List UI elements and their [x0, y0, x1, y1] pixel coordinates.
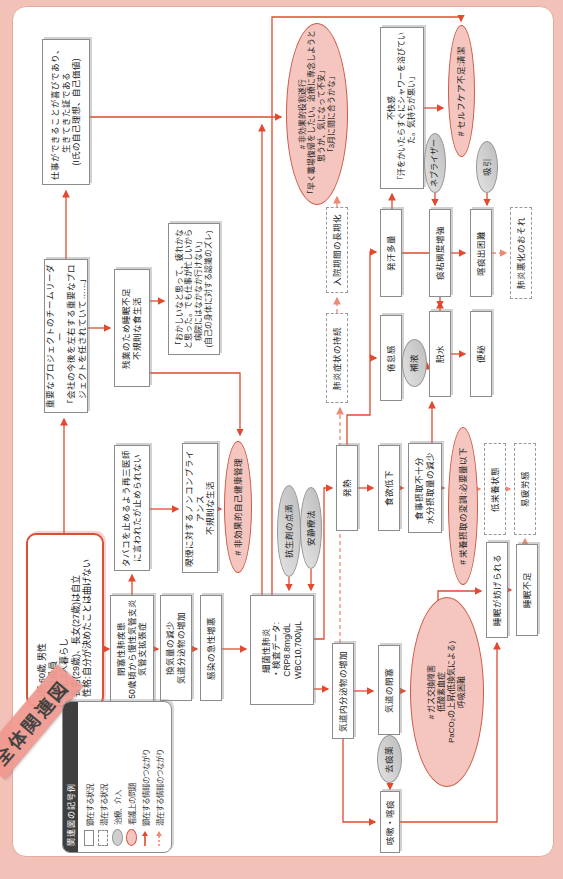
legend-label: 治療、介入 — [112, 790, 123, 825]
legend: 関連図の記号例 顕在する状況 潜在する状況 治療、介入 看護上の問題 — [62, 701, 172, 853]
node-sputum-viscosity-increase: 痰粘稠度増強 — [429, 209, 451, 297]
node-malaise: 倦怠感 — [380, 315, 402, 401]
node-malnutrition: 低栄養状態 — [484, 443, 506, 535]
node-cough-sputum: 咳嗽・喀痰 — [380, 791, 400, 853]
node-fever: 発熱 — [336, 445, 358, 531]
node-acute-infection-exacerbation: 感染の急性増悪 — [200, 595, 222, 701]
legend-item-latent-state: 潜在する状況 — [96, 708, 110, 846]
node-smoking-noncompliance: 喫煙に対するノンコンプライアンス 不規則な生活 — [182, 443, 218, 573]
node-constipation: 便秘 — [470, 311, 492, 397]
solid-arrow-icon — [141, 830, 149, 846]
legend-item-existing-state: 顕在する状況 — [82, 708, 96, 846]
legend-item-existing-link: 顕在する情報のつながり — [138, 708, 152, 846]
node-impaired-gas-exchange: # ガス交換障害 低酸素血症 PaCO₂の上昇(低換気による) 呼吸困難 — [410, 597, 484, 787]
node-antibiotic-iv: 抗生剤の点滴 — [277, 485, 301, 577]
node-airway-secretion-increase: 気道内分泌物の増加 — [332, 643, 354, 739]
node-sleep-lack: 睡眠不足 — [516, 544, 538, 636]
node-expectorant: 去痰薬 — [377, 735, 402, 783]
gray-ellipse-icon — [112, 829, 123, 846]
node-ventilation-decrease: 換気量の減少 気道分泌物の増加 — [160, 595, 192, 701]
node-ineffective-self-health-management: # 非効果的自己健康管理 — [224, 441, 252, 573]
node-cannot-quit-smoking: タバコを止めるよう再三医師に言われたが止められない — [114, 445, 150, 571]
node-profuse-sweating: 発汗多量 — [380, 209, 402, 297]
solid-box-icon — [84, 830, 94, 846]
node-risk-pneumonia-worsening: 肺炎悪化のおそれ — [510, 207, 532, 299]
legend-item-treatment: 治療、介入 — [110, 708, 124, 846]
diagram-stage: 全体関連図 関連図の記号例 顕在する状況 潜在する状況 治療、介入 看護上の問題 — [0, 0, 563, 879]
legend-label: 顕在する情報のつながり — [140, 749, 151, 826]
node-sleep-disturbed: 睡眠が妨げられる — [486, 542, 508, 638]
node-pneumonia-symptoms-persist: 肺炎症状の持続 — [326, 313, 348, 403]
node-difficulty-expectorating: 喀痰出困難 — [470, 209, 492, 297]
node-airway-obstruction: 気道の閉塞 — [378, 645, 400, 735]
dashed-box-icon — [98, 830, 108, 846]
pink-ellipse-icon — [126, 829, 137, 846]
rotated-nursing-concept-map: { "title": "全体関連図", "legend": { "header"… — [0, 0, 563, 879]
node-work-pride: 仕事ができることが喜びであり、生きてきた証である (I氏の自己理想、自己価値) — [42, 39, 90, 185]
node-bacterial-pneumonia: 細菌性肺炎 ・検査データ: CRP8.8mg/dL WBC10,700/μL — [250, 595, 314, 705]
node-awareness-gap: 「おかしいなと思って、疲れかなと思った。でも仕事が忙しいから病院にはなかなか行け… — [168, 223, 220, 355]
node-easy-fatigue: 易疲労感 — [514, 443, 536, 535]
legend-rows: 顕在する状況 潜在する状況 治療、介入 看護上の問題 顕在する情報のつながり — [78, 702, 171, 852]
node-prolonged-hospitalization: 入院期間の長期化 — [326, 207, 348, 293]
node-self-care-deficit-hygiene: # セルフケア不足:清潔 — [448, 25, 475, 157]
legend-item-latent-link: 潜在する情報のつながり — [152, 708, 166, 846]
legend-label: 顕在する状況 — [84, 784, 95, 826]
node-ineffective-role-performance: # 非効果的役割遂行 「早く職場復帰をしたい。治療に専念しようと思うが、気になっ… — [286, 23, 348, 205]
dashed-arrow-icon — [155, 830, 163, 846]
node-appetite-loss: 食欲低下 — [378, 445, 400, 531]
node-overtime-sleep-lack: 残業のため睡眠不足 不規則な食生活 — [114, 269, 150, 387]
legend-label: 潜在する情報のつながり — [154, 749, 165, 826]
legend-item-nursing-problem: 看護上の問題 — [124, 708, 138, 846]
node-dehydration: 脱水 — [429, 311, 451, 397]
legend-label: 潜在する状況 — [98, 784, 109, 826]
node-suction: 吸引 — [476, 141, 498, 193]
node-project-leader: 重要なプロジェクトのチームリーダー 「会社の今後を左右する重要なプロジェクトを任… — [44, 259, 88, 413]
node-discomfort: 不快感 「汗をかいたらすぐにシャワーを浴びていた。気持ちが悪い」 — [380, 27, 424, 189]
legend-header: 関連図の記号例 — [63, 702, 78, 852]
node-rest-therapy: 安静療法 — [300, 487, 322, 569]
node-obstructive-lung-disease: 閉塞性肺疾患 50歳頃から慢性気管支炎 気管支拡張症 — [110, 595, 154, 703]
node-altered-nutrition: # 栄養摂取の変調:必要量以下 — [448, 427, 478, 585]
node-fluid-replacement: 補液 — [402, 339, 427, 387]
node-nebulizer: ネブライザー — [424, 133, 446, 193]
legend-label: 看護上の問題 — [126, 783, 137, 825]
node-insufficient-intake: 食事摂取不十分 水分摂取量の減少 — [408, 443, 442, 533]
